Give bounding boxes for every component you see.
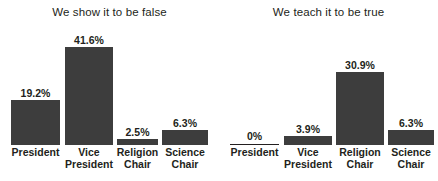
bar [117, 139, 158, 145]
bar-value-label: 0% [247, 131, 262, 142]
bar [230, 144, 279, 146]
bar-value-label: 30.9% [345, 60, 375, 71]
category-label: Science Chair [391, 146, 431, 170]
bar-group: 6.3% Science Chair [388, 130, 434, 145]
category-label: President [12, 146, 60, 158]
bar-group: 19.2% President [11, 100, 60, 145]
bar [65, 47, 113, 145]
category-label-line1: Science [391, 146, 431, 158]
category-label-line1: President [231, 146, 279, 158]
chart-panel-teach-true: We teach it to be true 0% President 3.9%… [219, 0, 438, 181]
bar-value-label: 41.6% [74, 35, 104, 46]
bar-value-label: 3.9% [296, 124, 320, 135]
bar [11, 100, 60, 145]
category-label-line2: Chair [391, 158, 431, 170]
bar-value-label: 19.2% [21, 88, 51, 99]
bar-group: 41.6% Vice President [65, 47, 113, 145]
category-label-line2: Chair [339, 158, 380, 170]
plot-area: 0% President 3.9% Vice President 30.9% R… [219, 0, 438, 181]
bar-group: 3.9% Vice President [284, 136, 332, 145]
bar-value-label: 2.5% [126, 127, 150, 138]
two-panel-bar-chart-figure: We show it to be false 19.2% President 4… [0, 0, 438, 181]
category-label-line1: Vice [78, 146, 99, 158]
category-label-line2: President [284, 158, 332, 170]
bar-group: 30.9% Religion Chair [336, 72, 384, 145]
bar [388, 130, 434, 145]
bar [284, 136, 332, 145]
category-label-line1: President [12, 146, 60, 158]
category-label-line1: Religion [339, 146, 380, 158]
category-label: Science Chair [165, 146, 205, 170]
category-label-line2: Chair [165, 158, 205, 170]
plot-area: 19.2% President 41.6% Vice President 2.5… [0, 0, 219, 181]
bar-group: 0% President [230, 143, 279, 145]
category-label: Religion Chair [117, 146, 158, 170]
category-label: Vice President [65, 146, 113, 170]
category-label: President [231, 146, 279, 158]
category-label: Religion Chair [339, 146, 380, 170]
category-label: Vice President [284, 146, 332, 170]
category-label-line2: President [65, 158, 113, 170]
category-label-line1: Religion [117, 146, 158, 158]
category-label-line1: Vice [297, 146, 318, 158]
chart-panel-show-false: We show it to be false 19.2% President 4… [0, 0, 219, 181]
category-label-line1: Science [165, 146, 205, 158]
bar-value-label: 6.3% [399, 118, 423, 129]
bar-group: 2.5% Religion Chair [117, 139, 158, 145]
bar [336, 72, 384, 145]
category-label-line2: Chair [117, 158, 158, 170]
bar [162, 130, 208, 145]
bar-group: 6.3% Science Chair [162, 130, 208, 145]
bar-value-label: 6.3% [173, 118, 197, 129]
